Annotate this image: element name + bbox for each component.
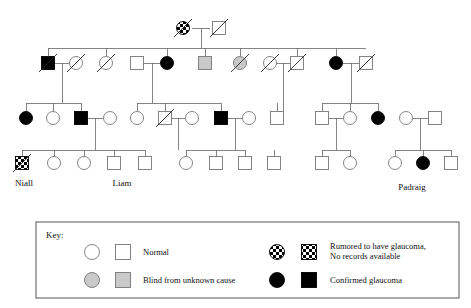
pedigree-symbol-square-normal[interactable] xyxy=(316,112,329,125)
female-symbol xyxy=(389,157,402,170)
generation-ii xyxy=(39,54,375,72)
pedigree-symbol-circle-affected[interactable] xyxy=(417,157,430,170)
pedigree-symbol-square-rumored[interactable] xyxy=(302,245,317,260)
female-symbol xyxy=(330,57,343,70)
pedigree-symbol-square-normal[interactable] xyxy=(288,54,306,72)
male-symbol xyxy=(239,157,252,170)
pedigree-symbol-square-normal[interactable] xyxy=(210,19,228,37)
pedigree-symbol-circle-normal[interactable] xyxy=(400,112,413,125)
pedigree-symbol-square-affected[interactable] xyxy=(215,112,228,125)
female-symbol xyxy=(85,273,100,288)
pedigree-symbol-circle-normal[interactable] xyxy=(85,245,100,260)
male-symbol xyxy=(445,157,458,170)
pedigree-symbol-circle-affected[interactable] xyxy=(270,273,285,288)
female-symbol xyxy=(400,112,413,125)
male-symbol xyxy=(199,57,212,70)
pedigree-symbol-circle-normal[interactable] xyxy=(243,112,256,125)
female-symbol xyxy=(186,112,199,125)
pedigree-symbol-square-normal[interactable] xyxy=(139,157,152,170)
pedigree-symbol-circle-normal[interactable] xyxy=(47,112,60,125)
female-symbol xyxy=(47,112,60,125)
pedigree-symbol-square-normal[interactable] xyxy=(116,245,131,260)
male-symbol xyxy=(302,245,317,260)
male-symbol xyxy=(116,245,131,260)
pedigree-symbol-square-affected[interactable] xyxy=(39,54,57,72)
pedigree-symbol-circle-normal[interactable] xyxy=(48,157,61,170)
key-blind-label: Blind from unknown cause xyxy=(143,275,236,285)
female-symbol xyxy=(344,112,357,125)
label-padraig: Padraig xyxy=(398,182,426,192)
key-title: Key: xyxy=(46,230,64,240)
pedigree-symbol-circle-rumored[interactable] xyxy=(174,19,192,37)
pedigree-symbol-circle-normal[interactable] xyxy=(78,157,91,170)
pedigree-symbol-circle-normal[interactable] xyxy=(261,54,279,72)
pedigree-connector-lines xyxy=(22,28,451,157)
female-symbol xyxy=(78,157,91,170)
pedigree-symbol-square-normal[interactable] xyxy=(271,112,284,125)
pedigree-symbol-circle-blind[interactable] xyxy=(85,273,100,288)
pedigree-symbol-square-normal[interactable] xyxy=(429,112,442,125)
pedigree-symbol-circle-normal[interactable] xyxy=(344,157,357,170)
female-symbol xyxy=(48,157,61,170)
pedigree-symbol-square-normal[interactable] xyxy=(268,157,281,170)
male-symbol xyxy=(268,157,281,170)
female-symbol xyxy=(372,112,385,125)
pedigree-symbol-square-blind[interactable] xyxy=(199,57,212,70)
key-rumored-label-line2: No records available xyxy=(330,251,401,261)
pedigree-symbol-square-normal[interactable] xyxy=(156,109,174,127)
pedigree-symbol-circle-affected[interactable] xyxy=(330,57,343,70)
male-symbol xyxy=(139,157,152,170)
female-symbol xyxy=(85,245,100,260)
female-symbol xyxy=(20,112,33,125)
male-symbol xyxy=(271,112,284,125)
pedigree-symbol-square-rumored[interactable] xyxy=(13,154,31,172)
male-symbol xyxy=(116,273,131,288)
pedigree-symbol-circle-normal[interactable] xyxy=(131,112,144,125)
male-symbol xyxy=(316,157,329,170)
female-symbol xyxy=(344,157,357,170)
pedigree-symbol-square-blind[interactable] xyxy=(116,273,131,288)
female-symbol xyxy=(417,157,430,170)
key-normal-label: Normal xyxy=(143,247,170,257)
key-confirmed-label: Confirmed glaucoma xyxy=(330,275,402,285)
female-symbol xyxy=(243,112,256,125)
pedigree-symbol-circle-normal[interactable] xyxy=(186,112,199,125)
male-symbol xyxy=(75,112,88,125)
pedigree-symbol-circle-normal[interactable] xyxy=(104,112,117,125)
pedigree-symbol-square-normal[interactable] xyxy=(357,54,375,72)
pedigree-symbol-square-normal[interactable] xyxy=(131,57,144,70)
pedigree-symbol-square-normal[interactable] xyxy=(445,157,458,170)
generation-iv xyxy=(13,154,458,172)
male-symbol xyxy=(215,112,228,125)
pedigree-canvas: NiallLiamPadraig Key: NormalBlind from u… xyxy=(0,0,471,308)
pedigree-symbol-circle-affected[interactable] xyxy=(372,112,385,125)
label-liam: Liam xyxy=(113,178,132,188)
pedigree-symbol-circle-normal[interactable] xyxy=(180,157,193,170)
pedigree-symbol-circle-rumored[interactable] xyxy=(270,245,285,260)
pedigree-individual-labels: NiallLiamPadraig xyxy=(15,178,426,192)
pedigree-symbol-circle-normal[interactable] xyxy=(67,54,85,72)
pedigree-symbol-circle-affected[interactable] xyxy=(161,57,174,70)
male-symbol xyxy=(429,112,442,125)
female-symbol xyxy=(270,245,285,260)
pedigree-symbol-square-normal[interactable] xyxy=(316,157,329,170)
male-symbol xyxy=(131,57,144,70)
pedigree-symbol-circle-blind[interactable] xyxy=(231,54,249,72)
pedigree-symbol-circle-normal[interactable] xyxy=(389,157,402,170)
male-symbol xyxy=(108,157,121,170)
pedigree-symbol-square-normal[interactable] xyxy=(210,157,223,170)
pedigree-symbol-square-affected[interactable] xyxy=(302,273,317,288)
female-symbol xyxy=(104,112,117,125)
female-symbol xyxy=(180,157,193,170)
pedigree-chart: NiallLiamPadraig Key: NormalBlind from u… xyxy=(0,0,471,308)
female-symbol xyxy=(161,57,174,70)
female-symbol xyxy=(270,273,285,288)
male-symbol xyxy=(302,273,317,288)
pedigree-symbol-square-normal[interactable] xyxy=(108,157,121,170)
male-symbol xyxy=(316,112,329,125)
pedigree-symbol-square-normal[interactable] xyxy=(239,157,252,170)
pedigree-symbol-circle-normal[interactable] xyxy=(344,112,357,125)
pedigree-symbol-circle-normal[interactable] xyxy=(97,54,115,72)
pedigree-symbol-circle-affected[interactable] xyxy=(20,112,33,125)
pedigree-symbol-square-affected[interactable] xyxy=(75,112,88,125)
